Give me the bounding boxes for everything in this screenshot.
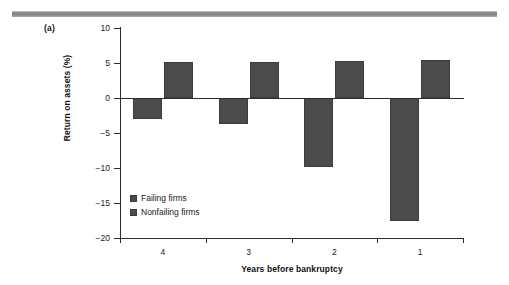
legend: Failing firms Nonfailing firms — [130, 192, 200, 220]
y-axis-tick — [114, 28, 120, 29]
x-axis-tick-label: 2 — [314, 247, 354, 257]
x-axis-tick-label: 3 — [229, 247, 269, 257]
bar — [304, 98, 333, 167]
x-axis-title: Years before bankruptcy — [120, 264, 464, 274]
y-axis-tick — [114, 133, 120, 134]
panel-label: (a) — [44, 23, 55, 33]
y-axis-tick-label: −15 — [82, 198, 110, 208]
y-axis-tick-label: 10 — [82, 23, 110, 33]
legend-swatch-nonfailing-firms — [130, 209, 137, 216]
y-axis-tick-label: 0 — [82, 93, 110, 103]
bar — [390, 98, 419, 221]
bar — [219, 98, 248, 124]
bar — [335, 61, 364, 98]
header-rule — [12, 11, 497, 17]
y-axis-tick-label: −20 — [82, 233, 110, 243]
x-axis-tick — [120, 238, 121, 243]
x-axis-tick-label: 4 — [143, 247, 183, 257]
legend-item: Failing firms — [130, 192, 200, 204]
y-axis-title: Return on assets (%) — [62, 18, 72, 178]
x-axis-tick-label: 1 — [400, 247, 440, 257]
x-axis-tick — [377, 238, 378, 243]
y-axis-tick-label: −5 — [82, 128, 110, 138]
legend-item: Nonfailing firms — [130, 206, 200, 218]
y-axis-tick — [114, 168, 120, 169]
bar — [250, 62, 279, 98]
bar — [133, 98, 162, 119]
legend-swatch-failing-firms — [130, 195, 137, 202]
x-axis-tick — [206, 238, 207, 243]
bar — [164, 62, 193, 98]
y-axis-tick-label: 5 — [82, 58, 110, 68]
legend-label-nonfailing-firms: Nonfailing firms — [141, 207, 200, 217]
legend-label-failing-firms: Failing firms — [141, 193, 187, 203]
y-axis-line — [120, 27, 121, 239]
figure-panel-a: (a) 1050−5−10−15−20 4321 Failing firms N… — [0, 0, 509, 285]
y-axis-tick — [114, 203, 120, 204]
x-axis-tick — [292, 238, 293, 243]
bar — [421, 60, 450, 98]
y-axis-tick — [114, 63, 120, 64]
x-axis-tick — [463, 238, 464, 243]
y-axis-tick-label: −10 — [82, 163, 110, 173]
zero-reference-line — [120, 98, 464, 99]
